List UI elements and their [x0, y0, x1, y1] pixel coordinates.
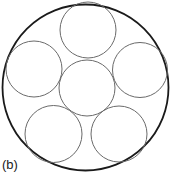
inner-circle-top: [60, 2, 116, 58]
inner-circle-lower-left: [25, 106, 82, 163]
figure-label: (b): [2, 158, 18, 172]
inner-circle-center: [59, 60, 115, 116]
inner-circle-upper-left: [6, 41, 62, 97]
inner-circle-upper-right: [113, 43, 168, 98]
circle-packing-diagram: [0, 0, 171, 179]
inner-circle-lower-right: [91, 106, 147, 162]
